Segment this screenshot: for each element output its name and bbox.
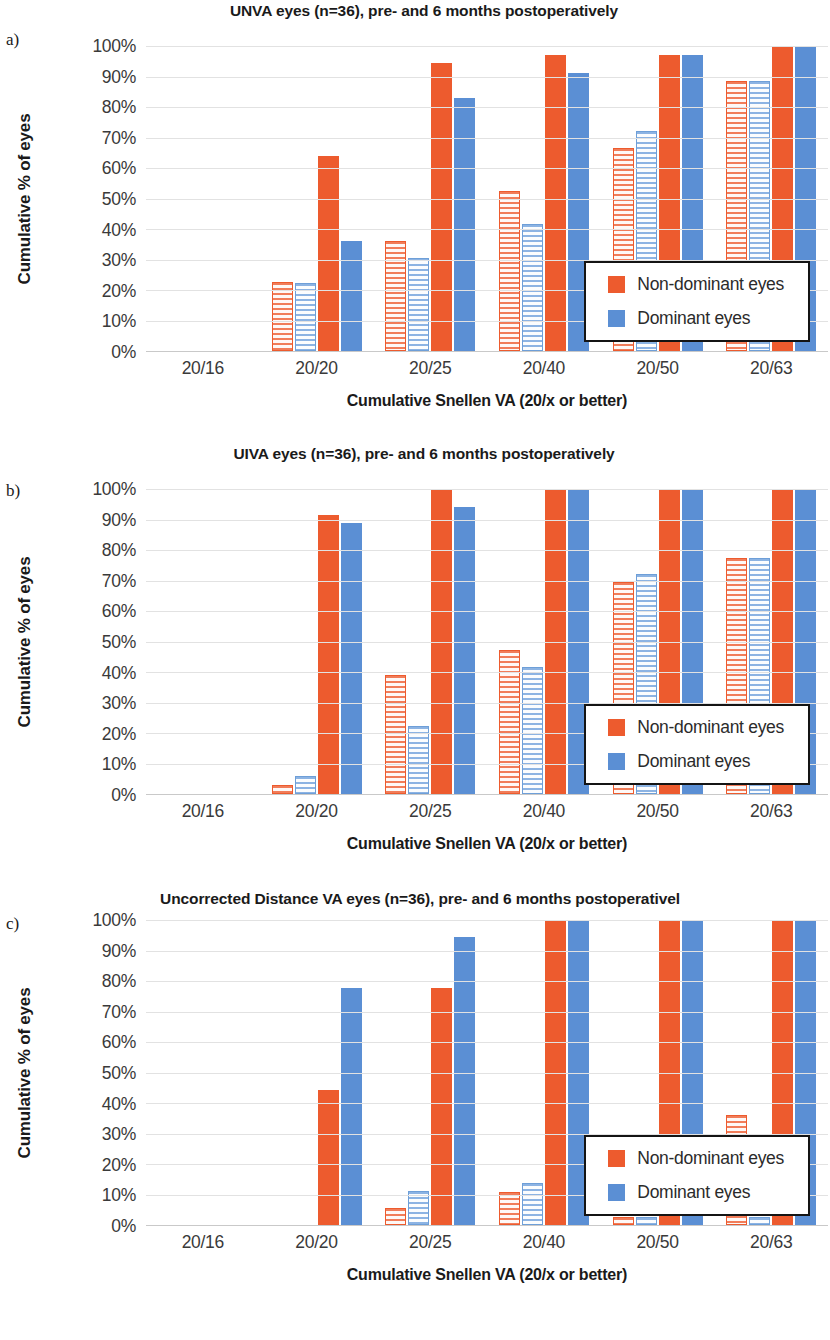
y-axis-tick-label: 90% [102, 66, 136, 87]
panel-a: UNVA eyes (n=36), pre- and 6 months post… [0, 0, 830, 440]
legend-item-non-dominant: Non-dominant eyes [608, 1148, 784, 1169]
bar [408, 726, 429, 794]
y-axis-tick-label: 60% [102, 1032, 136, 1053]
x-axis-tick-label: 20/16 [146, 358, 260, 379]
legend-item-non-dominant: Non-dominant eyes [608, 274, 784, 295]
y-axis-tick-label: 90% [102, 509, 136, 530]
gridline [146, 489, 828, 490]
bar [499, 191, 520, 351]
bar [408, 258, 429, 351]
panel-a-ylabel: Cumulative % of eyes [15, 114, 35, 285]
bar [385, 1208, 406, 1225]
legend-swatch-dominant-icon [608, 310, 625, 327]
bar [341, 241, 362, 351]
y-axis-tick-label: 50% [102, 1063, 136, 1084]
y-axis-tick-label: 10% [102, 754, 136, 775]
panel-c: Uncorrected Distance VA eyes (n=36), pre… [0, 888, 830, 1340]
x-axis-tick-label: 20/16 [146, 1232, 260, 1253]
gridline [146, 920, 828, 921]
bar [341, 988, 362, 1225]
bar [636, 1217, 657, 1225]
panel-c-legend: Non-dominant eyes Dominant eyes [584, 1135, 810, 1216]
y-axis-tick-label: 0% [111, 785, 136, 806]
x-axis-tick-label: 20/63 [714, 358, 828, 379]
panel-b-title: UIVA eyes (n=36), pre- and 6 months post… [0, 443, 830, 462]
legend-swatch-non-dominant-icon [608, 719, 625, 736]
legend-item-dominant: Dominant eyes [608, 751, 784, 772]
x-axis-tick-label: 20/50 [601, 358, 715, 379]
legend-item-dominant: Dominant eyes [608, 1182, 784, 1203]
gridline [146, 520, 828, 521]
panel-a-plot-wrap: Cumulative % of eyes 0%10%20%30%40%50%60… [0, 46, 830, 352]
bar [318, 156, 339, 351]
x-axis-tick-label: 20/20 [260, 1232, 374, 1253]
y-axis-tick-label: 0% [111, 1216, 136, 1237]
y-axis-tick-label: 100% [92, 479, 136, 500]
x-axis-tick-label: 20/40 [487, 358, 601, 379]
y-axis-tick-label: 40% [102, 662, 136, 683]
gridline [146, 1103, 828, 1104]
x-axis-tick-label: 20/40 [487, 1232, 601, 1253]
x-axis-tick-label: 20/50 [601, 801, 715, 822]
x-axis-tick-label: 20/20 [260, 358, 374, 379]
panel-c-xticks: 20/1620/2020/2520/4020/5020/63 [146, 1232, 828, 1253]
bar [749, 1217, 770, 1225]
y-axis-tick-label: 10% [102, 311, 136, 332]
x-axis-tick-label: 20/50 [601, 1232, 715, 1253]
panel-a-legend: Non-dominant eyes Dominant eyes [584, 261, 810, 342]
y-axis-tick-label: 50% [102, 189, 136, 210]
panel-b-legend: Non-dominant eyes Dominant eyes [584, 704, 810, 785]
legend-label-non-dominant: Non-dominant eyes [637, 274, 784, 295]
y-axis-tick-label: 30% [102, 1124, 136, 1145]
bar [522, 224, 543, 351]
gridline [146, 77, 828, 78]
x-axis-tick-label: 20/63 [714, 1232, 828, 1253]
x-axis-tick-label: 20/16 [146, 801, 260, 822]
gridline [146, 138, 828, 139]
y-axis-tick-label: 90% [102, 940, 136, 961]
bar [385, 675, 406, 794]
y-axis-tick-label: 80% [102, 540, 136, 561]
bar [295, 776, 316, 794]
legend-swatch-dominant-icon [608, 753, 625, 770]
y-axis-tick-label: 80% [102, 971, 136, 992]
bar [499, 1192, 520, 1225]
gridline [146, 1012, 828, 1013]
gridline [146, 951, 828, 952]
panel-b-xlabel: Cumulative Snellen VA (20/x or better) [146, 835, 828, 853]
panel-c-title: Uncorrected Distance VA eyes (n=36), pre… [0, 888, 830, 907]
legend-label-dominant: Dominant eyes [637, 751, 750, 772]
legend-item-dominant: Dominant eyes [608, 308, 784, 329]
y-axis-tick-label: 40% [102, 219, 136, 240]
y-axis-tick-label: 20% [102, 723, 136, 744]
legend-label-dominant: Dominant eyes [637, 308, 750, 329]
gridline [146, 581, 828, 582]
bar [341, 523, 362, 794]
panel-c-xlabel: Cumulative Snellen VA (20/x or better) [146, 1266, 828, 1284]
bar [295, 283, 316, 351]
bar [385, 241, 406, 351]
y-axis-tick-label: 70% [102, 570, 136, 591]
panel-c-plot-wrap: Cumulative % of eyes 0%10%20%30%40%50%60… [0, 920, 830, 1226]
y-axis-tick-label: 80% [102, 97, 136, 118]
y-axis-tick-label: 20% [102, 1154, 136, 1175]
x-axis-tick-label: 20/40 [487, 801, 601, 822]
panel-a-xlabel: Cumulative Snellen VA (20/x or better) [146, 392, 828, 410]
bar [408, 1191, 429, 1225]
panel-b-xticks: 20/1620/2020/2520/4020/5020/63 [146, 801, 828, 822]
x-axis-tick-label: 20/25 [373, 358, 487, 379]
panel-c-ylabel: Cumulative % of eyes [15, 988, 35, 1159]
figure-root: UNVA eyes (n=36), pre- and 6 months post… [0, 0, 830, 1340]
gridline [146, 107, 828, 108]
bar [522, 1183, 543, 1225]
panel-b: UIVA eyes (n=36), pre- and 6 months post… [0, 443, 830, 883]
y-axis-tick-label: 70% [102, 127, 136, 148]
y-axis-tick-label: 10% [102, 1185, 136, 1206]
y-axis-tick-label: 30% [102, 693, 136, 714]
bar [613, 1217, 634, 1225]
x-axis-tick-label: 20/20 [260, 801, 374, 822]
gridline [146, 611, 828, 612]
panel-b-plot-wrap: Cumulative % of eyes 0%10%20%30%40%50%60… [0, 489, 830, 795]
y-axis-tick-label: 0% [111, 342, 136, 363]
legend-swatch-dominant-icon [608, 1184, 625, 1201]
